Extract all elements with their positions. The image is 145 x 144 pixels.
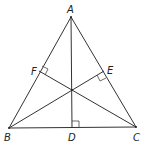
side-bc	[9, 127, 136, 128]
label-f: F	[31, 66, 37, 77]
label-b: B	[4, 132, 11, 143]
side-ab	[9, 17, 71, 128]
point-a	[70, 16, 72, 18]
side-ca	[71, 17, 136, 127]
label-c: C	[133, 132, 140, 143]
triangle-diagram: A B C D E F	[0, 0, 145, 144]
right-angle-d	[72, 121, 79, 128]
right-angle-e	[97, 75, 106, 81]
label-d: D	[68, 132, 76, 143]
point-orthocenter	[71, 89, 73, 91]
point-b	[8, 127, 10, 129]
altitude-ad	[71, 17, 72, 128]
altitude-be	[9, 71, 104, 128]
altitude-cf	[39, 71, 136, 127]
label-e: E	[107, 65, 114, 76]
label-a: A	[66, 4, 74, 15]
point-c	[135, 126, 137, 128]
